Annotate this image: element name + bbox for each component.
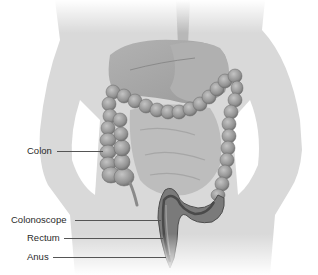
leader-line-colonoscope: [75, 220, 161, 221]
label-rectum: Rectum: [27, 232, 60, 243]
label-colonoscope: Colonoscope: [11, 214, 66, 225]
leader-line-rectum: [64, 238, 163, 239]
label-colon: Colon: [27, 145, 52, 156]
label-anus: Anus: [27, 251, 49, 262]
leader-line-colon: [57, 151, 103, 152]
anatomy-figure: Colon Colonoscope Rectum Anus: [0, 0, 318, 275]
leader-line-anus: [53, 257, 166, 258]
